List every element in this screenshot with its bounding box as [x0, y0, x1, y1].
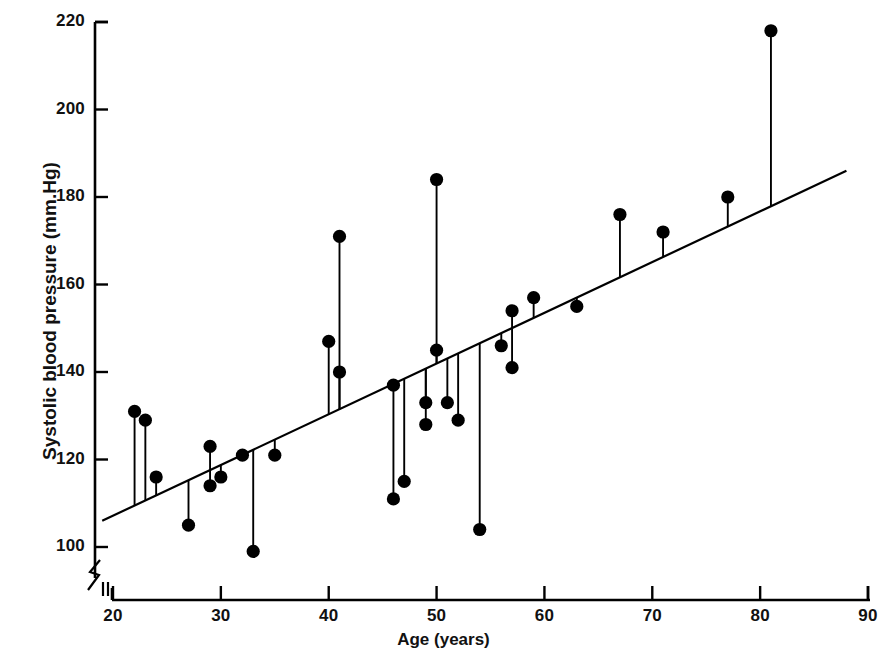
data-point	[398, 475, 411, 488]
data-point	[268, 449, 281, 462]
axis-ticks	[95, 22, 868, 600]
regression-line-segment	[102, 171, 846, 521]
data-point	[128, 405, 141, 418]
data-point	[182, 519, 195, 532]
data-points	[128, 24, 778, 558]
data-point	[203, 440, 216, 453]
x-tick-label: 30	[195, 606, 247, 626]
data-point	[236, 449, 249, 462]
data-point	[430, 344, 443, 357]
x-tick-label: 20	[87, 606, 139, 626]
data-point	[247, 545, 260, 558]
data-point	[419, 396, 432, 409]
data-point	[322, 335, 335, 348]
data-point	[387, 492, 400, 505]
y-tick-label: 220	[33, 11, 85, 31]
x-tick-label: 70	[626, 606, 678, 626]
scatter-chart: 1001201401601802002202030405060708090 Sy…	[0, 0, 887, 665]
data-point	[441, 396, 454, 409]
data-point	[527, 291, 540, 304]
data-point	[214, 470, 227, 483]
x-tick-label: 50	[411, 606, 463, 626]
data-point	[473, 523, 486, 536]
data-point	[764, 24, 777, 37]
data-point	[721, 190, 734, 203]
y-tick-label: 200	[33, 99, 85, 119]
data-point	[139, 414, 152, 427]
data-point	[613, 208, 626, 221]
data-point	[505, 361, 518, 374]
data-point	[203, 479, 216, 492]
y-axis-label: Systolic blood pressure (mm.Hg)	[39, 121, 61, 501]
data-point	[452, 414, 465, 427]
x-tick-label: 80	[734, 606, 786, 626]
data-point	[333, 230, 346, 243]
data-point	[570, 300, 583, 313]
x-axis-label: Age (years)	[0, 630, 887, 650]
drop-lines	[135, 31, 771, 552]
plot-area	[0, 0, 887, 665]
regression-line	[102, 171, 846, 521]
axis-break-marks	[88, 560, 108, 596]
data-point	[387, 379, 400, 392]
data-point	[419, 418, 432, 431]
data-point	[150, 470, 163, 483]
x-tick-label: 40	[303, 606, 355, 626]
y-tick-label: 100	[33, 536, 85, 556]
data-point	[495, 339, 508, 352]
x-tick-label: 90	[842, 606, 887, 626]
data-point	[333, 365, 346, 378]
data-point	[505, 304, 518, 317]
data-point	[656, 225, 669, 238]
data-point	[430, 173, 443, 186]
axes	[95, 22, 870, 600]
x-tick-label: 60	[518, 606, 570, 626]
